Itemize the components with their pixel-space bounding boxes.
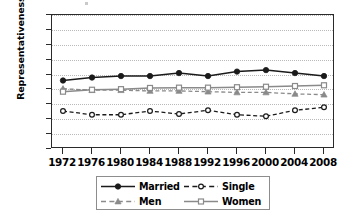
y-axis-tick-mark — [46, 88, 51, 89]
chart-figure: Representativeness Ratio MarriedSingleMe… — [0, 0, 345, 215]
data-point — [322, 83, 327, 88]
series-women — [61, 83, 327, 94]
data-point — [90, 87, 95, 92]
legend-label: Women — [222, 196, 261, 207]
series-canvas — [52, 15, 335, 149]
data-point — [61, 89, 66, 94]
data-point — [89, 75, 94, 80]
data-point — [322, 105, 327, 110]
data-point — [176, 70, 181, 75]
x-axis-tick-mark — [323, 148, 324, 154]
data-point — [148, 85, 153, 90]
data-series-layer — [52, 15, 333, 147]
y-axis-tick-mark — [46, 59, 51, 60]
series-line — [63, 85, 324, 91]
data-point — [293, 108, 298, 113]
data-point — [177, 85, 182, 90]
data-point — [321, 73, 326, 78]
y-axis-tick-mark — [46, 103, 51, 104]
data-point — [264, 84, 269, 89]
x-axis-tick-mark — [91, 148, 92, 154]
data-point — [206, 85, 211, 90]
legend-swatch-filled-circle — [100, 181, 136, 192]
y-axis-tick-mark — [46, 29, 51, 30]
y-axis-tick-mark — [46, 118, 51, 119]
y-axis-tick-mark — [46, 148, 51, 149]
data-point — [235, 112, 240, 117]
y-axis-tick-mark — [46, 133, 51, 134]
y-axis-tick-mark — [46, 44, 51, 45]
x-axis-tick-mark — [62, 148, 63, 154]
data-point — [90, 112, 95, 117]
legend-item-single[interactable]: Single — [183, 179, 266, 194]
scan-artifact — [85, 2, 88, 5]
legend-item-married[interactable]: Married — [100, 179, 183, 194]
legend-item-women[interactable]: Women — [183, 194, 266, 209]
series-married — [60, 67, 326, 83]
chart-legend: MarriedSingleMenWomen — [96, 176, 270, 210]
x-axis-tick-mark — [149, 148, 150, 154]
x-axis-tick-mark — [265, 148, 266, 154]
plot-area — [51, 14, 334, 148]
legend-label: Married — [139, 181, 180, 192]
data-point — [264, 114, 269, 119]
x-axis-tick-mark — [120, 148, 121, 154]
data-point — [206, 108, 211, 113]
series-line — [63, 70, 324, 80]
data-point — [119, 87, 124, 92]
data-point — [60, 78, 65, 83]
data-point — [177, 112, 182, 117]
data-point — [293, 84, 298, 89]
y-axis-tick-mark — [46, 74, 51, 75]
data-point — [118, 73, 123, 78]
x-axis-tick-mark — [236, 148, 237, 154]
series-line — [63, 107, 324, 116]
legend-swatch-open-square — [183, 196, 219, 207]
y-axis-title: Representativeness Ratio — [15, 0, 29, 107]
legend-label: Men — [139, 196, 161, 207]
data-point — [235, 85, 240, 90]
legend-swatch-open-circle — [183, 181, 219, 192]
legend-label: Single — [222, 181, 255, 192]
data-point — [119, 112, 124, 117]
x-axis-tick-mark — [294, 148, 295, 154]
data-point — [61, 109, 66, 114]
x-axis-tick-label: 2008 — [303, 156, 343, 168]
series-single — [61, 105, 327, 119]
data-point — [292, 70, 297, 75]
x-axis-tick-mark — [207, 148, 208, 154]
x-axis-tick-mark — [178, 148, 179, 154]
legend-swatch-filled-triangle — [100, 196, 136, 207]
data-point — [234, 69, 239, 74]
legend-item-men[interactable]: Men — [100, 194, 183, 209]
data-point — [263, 67, 268, 72]
y-axis-tick-mark — [46, 14, 51, 15]
data-point — [148, 109, 153, 114]
data-point — [147, 73, 152, 78]
data-point — [205, 73, 210, 78]
